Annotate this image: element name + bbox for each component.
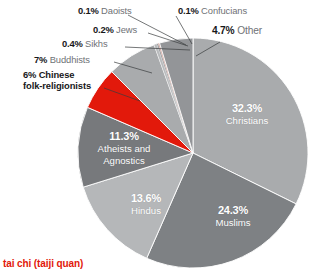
callout-value-daoists: 0.1%	[78, 5, 99, 16]
slice-name-christians: Christians	[213, 115, 281, 127]
slice-value-muslims: 24.3%	[199, 204, 267, 217]
slice-name-hindus: Hindus	[113, 205, 179, 217]
slice-label-muslims: 24.3% Muslims	[199, 204, 267, 229]
callout-value-chinese: 6%	[23, 69, 36, 80]
callout-name-jews: Jews	[116, 24, 137, 35]
slice-name-atheists-line2: Agnostics	[80, 155, 168, 167]
slice-label-hindus: 13.6% Hindus	[113, 192, 179, 217]
slice-value-hindus: 13.6%	[113, 192, 179, 205]
callout-value-jews: 0.2%	[93, 24, 114, 35]
callout-name-chinese: Chinese	[39, 69, 75, 80]
callout-chinese-line1: 6% Chinese	[23, 69, 91, 80]
slice-value-christians: 32.3%	[213, 102, 281, 115]
callout-label-chinese: 6% Chinese folk-religionists	[23, 69, 91, 91]
slice-label-atheists: 11.3% Atheists and Agnostics	[80, 130, 168, 167]
callout-value-other: 4.7%	[212, 25, 234, 36]
callout-label-other: 4.7% Other	[212, 25, 262, 36]
callout-value-confucians: 0.1%	[178, 5, 199, 16]
callout-name-confucians: Confucians	[201, 5, 247, 16]
callout-name-buddhists: Buddhists	[50, 54, 90, 65]
slice-name-atheists: Atheists and	[80, 143, 168, 155]
callout-name-daoists: Daoists	[101, 5, 132, 16]
callout-label-sikhs: 0.4% Sikhs	[62, 39, 108, 50]
callout-name-sikhs: Sikhs	[85, 38, 107, 49]
figure-caption: tai chi (taiji quan)	[3, 258, 83, 269]
callout-name-chinese-line2: folk-religionists	[23, 80, 91, 91]
slice-label-christians: 32.3% Christians	[213, 102, 281, 127]
slice-value-atheists: 11.3%	[80, 130, 168, 143]
callout-name-other: Other	[237, 25, 262, 36]
callout-value-sikhs: 0.4%	[62, 38, 83, 49]
callout-label-daoists: 0.1% Daoists	[78, 6, 132, 17]
callout-label-confucians: 0.1% Confucians	[178, 6, 247, 17]
slice-name-muslims: Muslims	[199, 217, 267, 229]
callout-label-jews: 0.2% Jews	[93, 25, 137, 36]
callout-value-buddhists: 7%	[34, 54, 47, 65]
callout-label-buddhists: 7% Buddhists	[34, 55, 90, 66]
pie-chart-figure: 0.1% Daoists 0.1% Confucians 0.2% Jews 4…	[0, 0, 319, 270]
